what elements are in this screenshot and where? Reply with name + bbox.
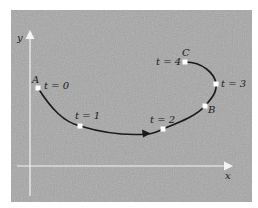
marker-t1	[78, 124, 83, 129]
param-label-t2: t = 2	[150, 114, 175, 125]
panel	[11, 10, 252, 202]
marker-A	[36, 86, 41, 91]
x-axis-label: x	[225, 170, 231, 181]
parametric-curve-diagram: y x A t = 0 t = 1 t = 2 B t = 3 C t = 4	[0, 0, 258, 208]
y-axis-label: y	[16, 32, 23, 43]
marker-B	[203, 104, 208, 109]
param-label-t4: t = 4	[156, 56, 181, 67]
marker-t3	[214, 82, 219, 87]
param-label-t1: t = 1	[75, 110, 100, 121]
marker-t2	[161, 127, 166, 132]
point-label-B: B	[207, 104, 215, 115]
param-label-t0: t = 0	[44, 80, 70, 91]
point-label-A: A	[31, 74, 39, 85]
marker-C	[183, 60, 188, 65]
param-label-t3: t = 3	[221, 78, 246, 89]
point-label-C: C	[182, 47, 190, 58]
